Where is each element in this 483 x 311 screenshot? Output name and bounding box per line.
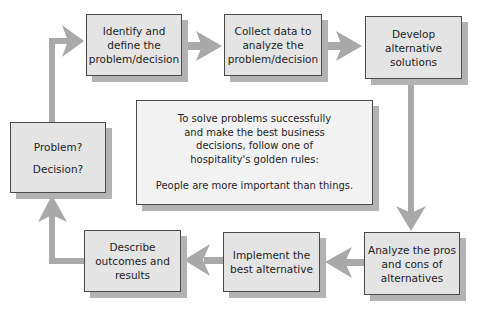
- step-text: Identify and: [103, 24, 166, 38]
- step-analyze: Analyze the pros and cons of alternative…: [364, 232, 460, 295]
- golden-rule-text: People are more important than things.: [156, 179, 353, 193]
- connector-describe-to-problem-vertical: [49, 214, 55, 264]
- step-text: define the: [107, 38, 160, 52]
- golden-rule-note: To solve problems successfully and make …: [136, 100, 373, 205]
- step-collect: Collect data to analyze the problem/deci…: [224, 14, 322, 76]
- step-text: best alternative: [230, 262, 313, 276]
- step-text: solutions: [390, 55, 437, 69]
- step-text: Collect data to: [235, 24, 312, 38]
- note-text: and make the best business: [184, 126, 325, 140]
- connector-problem-to-identify-vertical: [49, 38, 55, 122]
- note-text: decisions, follow one of: [196, 139, 313, 153]
- note-text: hospitality's golden rules:: [190, 153, 319, 167]
- step-text: Analyze the pros: [368, 243, 456, 257]
- step-text: outcomes and: [95, 254, 170, 268]
- step-text: problem/decision: [228, 52, 318, 66]
- step-text: Decision?: [33, 158, 83, 180]
- step-text: problem/decision: [89, 52, 179, 66]
- step-text: Problem?: [34, 136, 83, 158]
- step-text: Implement the: [233, 248, 310, 262]
- connector-develop-to-analyze: [408, 79, 414, 214]
- step-implement: Implement the best alternative: [223, 232, 320, 292]
- step-text: Describe: [109, 240, 155, 254]
- step-text: Develop: [392, 27, 435, 41]
- step-text: analyze the: [242, 38, 303, 52]
- step-identify: Identify and define the problem/decision: [86, 14, 182, 76]
- step-text: results: [115, 268, 150, 282]
- note-text: To solve problems successfully: [178, 112, 331, 126]
- step-problem-decision: Problem? Decision?: [10, 122, 106, 193]
- step-describe: Describe outcomes and results: [84, 230, 181, 292]
- step-text: alternatives: [381, 271, 443, 285]
- step-text: alternative: [385, 41, 442, 55]
- step-develop: Develop alternative solutions: [365, 16, 462, 79]
- step-text: and cons of: [382, 257, 443, 271]
